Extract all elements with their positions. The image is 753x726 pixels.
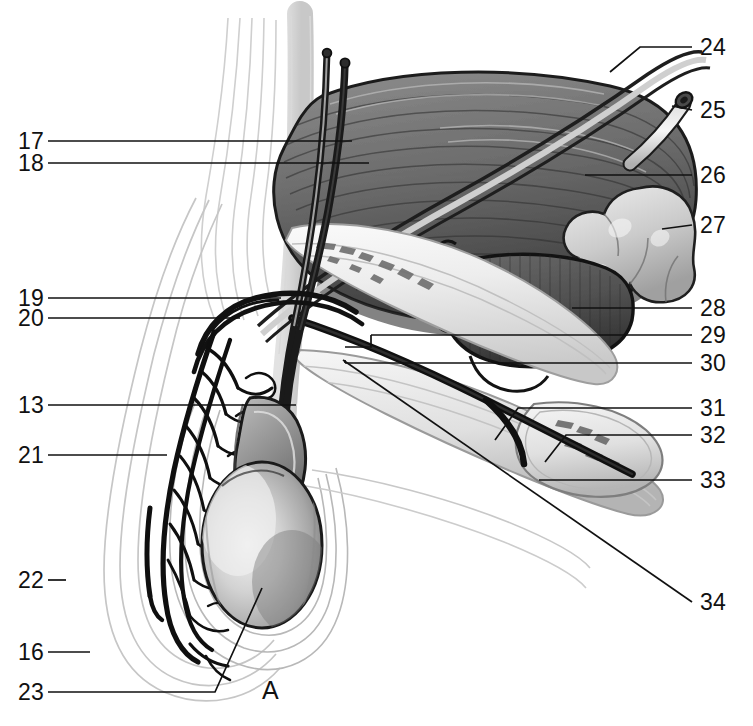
label-18: 18	[18, 152, 44, 175]
label-22: 22	[18, 569, 44, 592]
label-33: 33	[700, 469, 726, 492]
label-29: 29	[700, 324, 726, 347]
anatomy-illustration	[0, 0, 753, 726]
label-20: 20	[18, 307, 44, 330]
label-16: 16	[18, 641, 44, 664]
anatomical-figure: 17 18 19 20 13 21 22 16 23 24 25 26 27 2…	[0, 0, 753, 726]
label-34: 34	[700, 591, 726, 614]
label-32: 32	[700, 424, 726, 447]
label-25: 25	[700, 99, 726, 122]
label-23: 23	[18, 681, 44, 704]
label-28: 28	[700, 297, 726, 320]
label-30: 30	[700, 352, 726, 375]
label-26: 26	[700, 164, 726, 187]
label-24: 24	[700, 36, 726, 59]
panel-letter-a: A	[262, 678, 279, 703]
label-31: 31	[700, 397, 726, 420]
label-21: 21	[18, 444, 44, 467]
label-13: 13	[18, 394, 44, 417]
label-27: 27	[700, 214, 726, 237]
